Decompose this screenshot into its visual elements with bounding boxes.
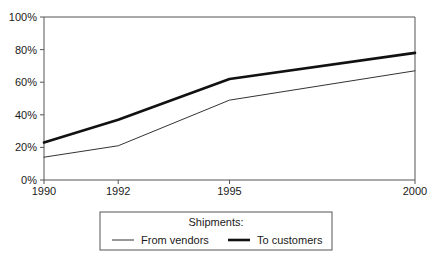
- x-tick-label-1995: 1995: [217, 185, 241, 197]
- series-line-from-vendors: [44, 71, 415, 157]
- y-tick-label-20: 20%: [15, 141, 37, 153]
- x-tick-label-2000: 2000: [403, 185, 427, 197]
- chart-canvas: 0% 20% 40% 60% 80% 100% 1990 1992 1995 2…: [0, 0, 432, 263]
- x-axis-ticks: [44, 180, 415, 184]
- y-tick-label-100: 100%: [9, 11, 37, 23]
- legend-label-to-customers: To customers: [257, 234, 323, 246]
- y-tick-label-80: 80%: [15, 44, 37, 56]
- line-chart-figure: 0% 20% 40% 60% 80% 100% 1990 1992 1995 2…: [0, 0, 432, 263]
- x-tick-label-1990: 1990: [32, 185, 56, 197]
- x-tick-label-1992: 1992: [106, 185, 130, 197]
- chart-legend: Shipments: From vendors To customers: [100, 212, 332, 250]
- plot-frame: [44, 17, 415, 180]
- legend-title: Shipments:: [188, 216, 243, 228]
- y-axis-ticks: [40, 17, 44, 180]
- legend-label-from-vendors: From vendors: [141, 234, 209, 246]
- y-tick-label-60: 60%: [15, 76, 37, 88]
- y-tick-label-40: 40%: [15, 109, 37, 121]
- series-line-to-customers: [44, 53, 415, 143]
